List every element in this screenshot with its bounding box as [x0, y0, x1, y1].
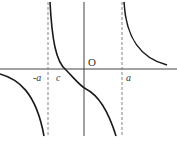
- c-label: c: [56, 72, 61, 83]
- curve-left-branch: [0, 74, 44, 136]
- neg-a-label: -a: [33, 72, 41, 83]
- origin-label: O: [88, 56, 96, 68]
- graph-canvas: O -a c a: [0, 0, 177, 142]
- a-label: a: [126, 72, 131, 83]
- curve-right-branch: [124, 2, 167, 65]
- function-graph: O -a c a: [0, 0, 177, 142]
